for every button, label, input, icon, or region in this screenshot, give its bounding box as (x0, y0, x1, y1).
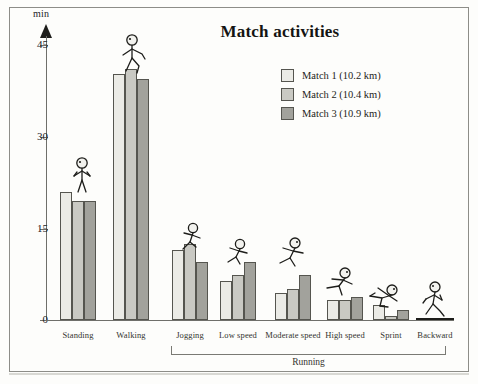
bar-moderate-speed-series-1 (275, 293, 287, 321)
running-group-label: Running (171, 357, 446, 367)
bar-moderate-speed-series-3 (299, 275, 311, 320)
bar-standing-series-2 (72, 201, 84, 320)
legend-swatch-match-1 (281, 69, 294, 82)
bar-walking-series-2 (125, 69, 137, 320)
chart-page: Match activities min 45 30 15 0 Standing… (0, 0, 478, 384)
running-bracket (171, 346, 446, 355)
bar-walking-series-1 (113, 74, 125, 320)
bar-standing-series-1 (60, 192, 72, 320)
standing-figure (68, 156, 96, 194)
high-speed-running-figure (322, 266, 356, 298)
category-label-walking: Walking (116, 330, 145, 340)
walking-figure (118, 33, 150, 75)
bar-high-speed-series-1 (327, 300, 339, 320)
sprint-figure (366, 280, 404, 310)
bar-high-speed-series-3 (351, 297, 363, 320)
legend-label-match-1: Match 1 (10.2 km) (302, 70, 381, 81)
backward-running-figure (418, 280, 450, 318)
bar-moderate-speed-series-2 (287, 289, 299, 320)
category-label-low-speed: Low speed (219, 330, 257, 340)
bar-sprint-series-3 (397, 310, 409, 320)
category-label-moderate-speed: Moderate speed (265, 330, 320, 340)
legend-swatch-match-3 (281, 107, 294, 120)
bar-walking-series-3 (137, 79, 149, 320)
chart-legend: Match 1 (10.2 km) Match 2 (10.4 km) Matc… (281, 66, 381, 123)
category-label-jogging: Jogging (176, 330, 204, 340)
legend-item-match-1: Match 1 (10.2 km) (281, 66, 381, 85)
x-axis-baseline (46, 320, 454, 321)
bar-low-speed-series-2 (232, 275, 244, 320)
category-label-standing: Standing (62, 330, 93, 340)
low-speed-running-figure (222, 238, 252, 268)
legend-label-match-2: Match 2 (10.4 km) (302, 89, 381, 100)
bar-standing-series-3 (84, 201, 96, 320)
bar-jogging-series-3 (196, 262, 208, 320)
category-label-high-speed: High speed (325, 330, 364, 340)
chart-plot-area: Match activities min 45 30 15 0 Standing… (0, 0, 478, 384)
legend-label-match-3: Match 3 (10.9 km) (302, 108, 381, 119)
category-label-sprint: Sprint (380, 330, 401, 340)
jogging-figure (176, 222, 206, 252)
bar-jogging-series-1 (172, 250, 184, 320)
legend-item-match-3: Match 3 (10.9 km) (281, 104, 381, 123)
bar-jogging-series-2 (184, 244, 196, 320)
legend-swatch-match-2 (281, 88, 294, 101)
moderate-speed-running-figure (274, 236, 308, 270)
bar-high-speed-series-2 (339, 300, 351, 320)
legend-item-match-2: Match 2 (10.4 km) (281, 85, 381, 104)
category-label-backward: Backward (417, 330, 452, 340)
bar-low-speed-series-1 (220, 281, 232, 320)
bar-low-speed-series-3 (244, 262, 256, 320)
